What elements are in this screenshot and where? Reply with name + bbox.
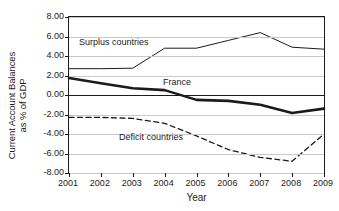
- y-tick-mark: [65, 134, 69, 135]
- zero-line: [69, 95, 324, 96]
- y-tick-label: 6.00: [28, 31, 64, 40]
- chart-container: Current Account Balances as % of GDP 8.0…: [0, 0, 339, 211]
- x-tick-label: 2008: [281, 178, 301, 188]
- y-tick-mark: [65, 37, 69, 38]
- x-tick-label: 2009: [313, 178, 333, 188]
- x-tick-label: 2001: [58, 178, 78, 188]
- y-tick-label: 4.00: [28, 51, 64, 60]
- gridline: [69, 56, 324, 57]
- x-axis-tick-labels: 200120022003200420052006200720082009: [68, 176, 325, 192]
- series-line-deficit-countries: [69, 117, 324, 161]
- gridline: [69, 115, 324, 116]
- gridline: [69, 76, 324, 77]
- x-tick-label: 2002: [90, 178, 110, 188]
- x-tick-label: 2007: [249, 178, 269, 188]
- y-tick-mark: [65, 115, 69, 116]
- series-annotation: France: [163, 77, 191, 87]
- y-tick-label: 0.00: [28, 90, 64, 99]
- x-tick-label: 2003: [122, 178, 142, 188]
- gridline: [69, 17, 324, 18]
- y-tick-label: -6.00: [28, 148, 64, 157]
- gridline: [69, 134, 324, 135]
- y-tick-mark: [65, 56, 69, 57]
- y-tick-label: -4.00: [28, 129, 64, 138]
- y-tick-label: -2.00: [28, 109, 64, 118]
- y-tick-label: 8.00: [28, 12, 64, 21]
- series-annotation: Deficit countries: [119, 132, 183, 142]
- x-tick-label: 2004: [154, 178, 174, 188]
- gridline: [69, 154, 324, 155]
- x-tick-label: 2006: [217, 178, 237, 188]
- y-tick-mark: [65, 17, 69, 18]
- x-axis-title: Year: [68, 192, 325, 203]
- y-tick-label: -8.00: [28, 168, 64, 177]
- y-tick-label: 2.00: [28, 70, 64, 79]
- y-tick-mark: [65, 95, 69, 96]
- series-annotation: Surplus countries: [79, 37, 149, 47]
- y-tick-mark: [65, 154, 69, 155]
- x-tick-label: 2005: [185, 178, 205, 188]
- y-tick-mark: [65, 76, 69, 77]
